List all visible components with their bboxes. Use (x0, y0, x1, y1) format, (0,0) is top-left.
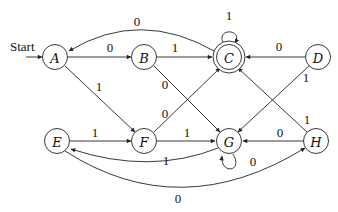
edge-label-f-g: 1 (184, 125, 191, 140)
state-label-h: H (309, 135, 322, 150)
edge-label-c-a: 0 (134, 14, 141, 29)
start-label: Start (10, 39, 35, 54)
edge-label-e-h: 0 (175, 191, 182, 206)
edge-d-g (238, 66, 309, 132)
state-label-b: B (138, 51, 149, 66)
edge-label-d-g: 1 (303, 70, 310, 85)
state-label-e: E (51, 135, 62, 150)
edge-label-b-g: 0 (162, 77, 169, 92)
edge-label-g-e: 1 (163, 153, 170, 168)
state-label-a: A (49, 51, 59, 66)
state-label-c: C (224, 51, 234, 66)
edge-label-a-b: 0 (107, 40, 114, 55)
state-e: E (45, 129, 70, 154)
state-f: F (132, 129, 157, 154)
automaton-diagram: Start 0 1 1 0 0 1 0 1 1 0 0 1 1 0 0 1 (0, 0, 338, 212)
edge-label-f-c: 0 (162, 106, 169, 121)
state-d: D (306, 45, 331, 70)
state-label-d: D (312, 51, 324, 66)
state-a: A (43, 45, 68, 70)
state-label-f: F (138, 135, 149, 150)
state-label-g: G (224, 135, 234, 150)
edge-label-b-c: 1 (172, 40, 179, 55)
state-b: B (132, 45, 157, 70)
edge-a-f (65, 66, 135, 132)
state-c-accepting: C (213, 41, 245, 73)
edge-label-e-f: 1 (92, 125, 99, 140)
edge-label-d-c: 0 (276, 39, 283, 54)
state-h: H (304, 129, 329, 154)
edge-label-c-c: 1 (226, 8, 233, 23)
state-g: G (217, 129, 242, 154)
edge-label-g-g: 0 (250, 154, 257, 169)
edge-label-h-g: 0 (277, 125, 284, 140)
edge-label-a-f: 1 (96, 79, 103, 94)
edge-label-h-c: 1 (304, 112, 311, 127)
edge-e-h (65, 148, 305, 187)
edge-g-g (222, 154, 236, 169)
